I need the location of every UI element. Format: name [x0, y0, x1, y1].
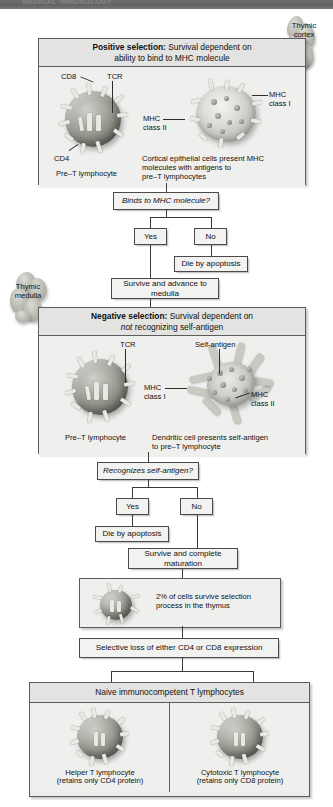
mhc-class-ii-line1: MHC	[143, 114, 160, 123]
decision1-yes-box: Yes	[134, 228, 167, 245]
helper-t-lymphocyte-graphic	[68, 708, 132, 766]
connector-decision1-yes-drop	[150, 217, 151, 228]
cortical-epithelial-caption: Cortical epithelial cells present MHC mo…	[142, 155, 294, 181]
connector-negative-to-decision2	[148, 452, 149, 462]
cytotoxic-t-line1: Cytotoxic T lymphocyte	[201, 768, 279, 777]
thymic-medulla-callout: Thymic medulla	[4, 283, 52, 301]
decision1-no-box: No	[194, 228, 227, 245]
positive-selection-header: Positive selection: Survival dependent o…	[39, 39, 305, 67]
positive-selection-title-rest: Survival dependent on	[166, 42, 252, 52]
negative-selection-body: TCR Self-antigen MHC class I MHC class I…	[39, 336, 305, 457]
dendritic-cell	[187, 342, 273, 426]
connector-decision1-split	[150, 217, 212, 218]
survival-rate-line2: process in the thymus	[156, 601, 230, 610]
connector-naive-left-drop	[111, 671, 112, 682]
thymic-cortex-label-line1: Thymic	[292, 21, 316, 30]
cd8-leader-line	[80, 76, 93, 82]
connector-decision1-no-drop	[211, 217, 212, 228]
self-antigen-label: Self-antigen	[195, 341, 236, 350]
decision2-apoptosis-box: Die by apoptosis	[95, 526, 169, 542]
helper-t-lymphocyte-caption: Helper T lymphocyte (retains only CD4 pr…	[38, 769, 162, 787]
decision2-survive-box: Survive and complete maturation	[128, 548, 238, 569]
dendritic-caption-line2: to pre–T lymphocyte	[152, 442, 221, 451]
helper-t-line2: (retains only CD4 protein)	[57, 776, 144, 785]
survival-rate-line1: 2% of cells survive selection	[156, 592, 251, 601]
negative-selection-title-bold: Negative selection:	[91, 311, 167, 321]
mhc-class-i-neg-line1: MHC	[144, 383, 161, 392]
tcr-label-negative: TCR	[120, 341, 136, 350]
mhc-class-ii-line2: class II	[143, 123, 167, 132]
mhc-class-i-neg-line2: class I	[144, 392, 166, 401]
tcr-leader-line-negative	[125, 349, 126, 383]
pre-t-lymphocyte-label-positive: Pre–T lymphocyte	[56, 170, 117, 179]
survival-rate-panel: 2% of cells survive selection process in…	[79, 578, 281, 628]
survive-maturation-line2: maturation	[164, 559, 202, 568]
top-bar-title: MEDICAL IMMUNOLOGY	[22, 0, 212, 8]
connector-decision2-yes-to-apoptosis	[132, 515, 133, 526]
mhc-class-ii-neg-line2: class II	[251, 399, 275, 408]
cytotoxic-t-lymphocyte-cell-group: Cytotoxic T lymphocyte (retains only CD8…	[170, 703, 309, 792]
connector-decision1-yes-to-survive	[150, 245, 151, 278]
surviving-cell-graphic	[90, 582, 142, 626]
decision1-survive-box: Survive and advance to medulla	[111, 278, 219, 299]
naive-lymphocytes-header: Naive immunocompetent T lymphocytes	[30, 683, 309, 703]
tcr-label-positive: TCR	[107, 73, 123, 82]
cd8-label: CD8	[61, 73, 76, 82]
cytotoxic-t-line2: (retains only CD8 protein)	[197, 776, 284, 785]
mhc-class-i-line2: class I	[269, 99, 291, 108]
connector-decision2-no-drop	[197, 487, 198, 498]
tcr-leader-line-positive	[112, 81, 113, 113]
thymic-cortex-callout: Thymic cortex	[283, 22, 325, 40]
naive-lymphocytes-panel: Naive immunocompetent T lymphocytes	[29, 682, 310, 797]
connector-decision2-yes-drop	[132, 487, 133, 498]
cortical-epithelial-cell	[189, 79, 263, 149]
mhc-class-ii-neg-line1: MHC	[251, 390, 268, 399]
thymic-medulla-label-line1: Thymic	[16, 282, 40, 291]
survival-rate-text: 2% of cells survive selection process in…	[156, 593, 276, 611]
helper-t-line1: Helper T lymphocyte	[65, 768, 134, 777]
connector-selective-loss-stem	[182, 658, 183, 672]
decision1-question-box: Binds to MHC molecule?	[113, 192, 219, 210]
decision1-apoptosis-box: Die by apoptosis	[174, 256, 248, 272]
survive-advance-line2: medulla	[151, 289, 179, 298]
cytotoxic-t-lymphocyte-caption: Cytotoxic T lymphocyte (retains only CD8…	[178, 769, 302, 787]
decision2-yes-box: Yes	[116, 498, 149, 515]
mhc-class-i-leader-line-positive	[252, 95, 268, 96]
mhc-class-i-label-positive: MHC class I	[269, 91, 291, 109]
mhc-class-i-label-negative: MHC class I	[144, 384, 166, 402]
mhc-class-i-line1: MHC	[269, 90, 286, 99]
positive-selection-panel: Positive selection: Survival dependent o…	[38, 38, 306, 185]
dendritic-caption-line1: Dendritic cell presents self-antigen	[152, 433, 268, 442]
mhc-class-ii-label-positive: MHC class II	[143, 115, 167, 133]
positive-selection-title-line2: ability to bind to MHC molecule	[114, 53, 229, 63]
positive-selection-body: CD8 TCR CD4 Pre–T lymphocyte MHC class I…	[39, 67, 305, 188]
mhc-class-ii-leader-line-positive	[163, 119, 185, 120]
cd4-label: CD4	[54, 155, 69, 164]
dendritic-cell-caption: Dendritic cell presents self-antigen to …	[152, 434, 302, 452]
connector-positive-to-decision1	[166, 183, 167, 192]
connector-naive-right-drop	[253, 671, 254, 682]
connector-decision2-split	[132, 487, 198, 488]
cortical-caption-line3: pre–T lymphocytes	[142, 172, 206, 181]
connector-survival-to-selective-loss	[182, 626, 183, 638]
pre-t-lymphocyte-label-negative: Pre–T lymphocyte	[65, 434, 126, 443]
connector-naive-split	[111, 671, 254, 672]
cortical-caption-line2: molecules with antigens to	[142, 163, 231, 172]
connector-survive-to-survival-panel	[182, 569, 183, 578]
negative-selection-title-rest: Survival dependent on	[167, 311, 253, 321]
self-antigen-leader-line	[219, 349, 220, 374]
thymic-medulla-label-line2: medulla	[15, 291, 42, 300]
negative-selection-header: Negative selection: Survival dependent o…	[39, 308, 305, 336]
pre-t-lymphocyte-cell-positive	[57, 83, 129, 155]
cytotoxic-t-lymphocyte-graphic	[208, 708, 272, 766]
survive-advance-line1: Survive and advance to	[123, 279, 207, 288]
naive-lymphocytes-body: Helper T lymphocyte (retains only CD4 pr…	[30, 703, 309, 792]
mhc-class-i-leader-line-negative	[165, 388, 187, 389]
decision2-question-box: Recognizes self-antigen?	[97, 462, 199, 480]
negative-selection-panel: Negative selection: Survival dependent o…	[38, 307, 306, 454]
cortical-caption-line1: Cortical epithelial cells present MHC	[142, 154, 264, 163]
negative-selection-title-line2-rest: recognizing self-antigen	[132, 322, 223, 332]
survive-maturation-line1: Survive and complete	[145, 549, 222, 558]
helper-t-lymphocyte-cell-group: Helper T lymphocyte (retains only CD4 pr…	[30, 703, 170, 792]
positive-selection-title-bold: Positive selection:	[92, 42, 166, 52]
